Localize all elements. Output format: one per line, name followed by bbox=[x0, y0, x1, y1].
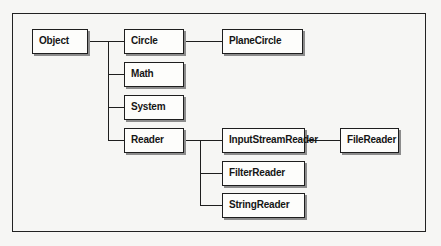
edge-object-math bbox=[108, 74, 124, 75]
edge-circle-planecircle bbox=[184, 41, 222, 42]
edge-object-system bbox=[108, 107, 124, 108]
edge-object-reader bbox=[108, 140, 124, 141]
edge-reader-filterreader bbox=[200, 173, 222, 174]
edge-object-trunk bbox=[88, 41, 124, 42]
edge-object-vertical bbox=[108, 41, 109, 141]
node-reader: Reader bbox=[124, 128, 184, 153]
node-inputstreamreader: InputStreamReader bbox=[222, 128, 305, 153]
node-object: Object bbox=[32, 29, 88, 54]
node-math: Math bbox=[124, 62, 184, 87]
node-filterreader: FilterReader bbox=[222, 161, 305, 186]
node-system: System bbox=[124, 95, 184, 120]
edge-reader-stringreader bbox=[200, 205, 222, 206]
node-planecircle: PlaneCircle bbox=[222, 29, 303, 54]
edge-reader-trunk bbox=[184, 140, 222, 141]
node-stringreader: StringReader bbox=[222, 193, 305, 218]
node-circle: Circle bbox=[124, 29, 184, 54]
node-filereader: FileReader bbox=[340, 128, 399, 153]
